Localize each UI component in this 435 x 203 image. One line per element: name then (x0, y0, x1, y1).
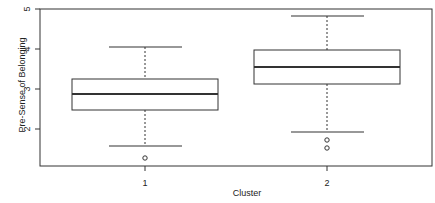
y-axis (35, 9, 40, 129)
x-axis (145, 166, 327, 171)
x-axis-label: Cluster (207, 188, 287, 198)
outlier-point (325, 138, 329, 142)
x-tick-2: 2 (324, 178, 329, 188)
box-cluster-1 (72, 47, 218, 160)
y-tick-5: 5 (22, 6, 32, 11)
plot-frame (40, 9, 432, 166)
boxplot-chart: 5 4 3 2 1 2 (0, 0, 435, 203)
x-tick-1: 1 (142, 178, 147, 188)
outlier-point (325, 146, 329, 150)
outlier-point (143, 156, 147, 160)
y-axis-label: Pre-Sense of Belonging (17, 25, 27, 145)
box-cluster-2 (254, 16, 400, 150)
